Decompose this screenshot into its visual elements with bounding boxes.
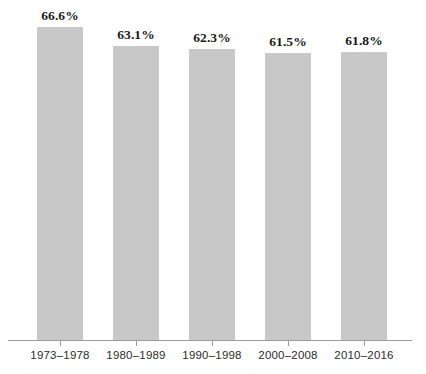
bar-rect[interactable] bbox=[341, 52, 387, 341]
bar-rect[interactable] bbox=[265, 53, 311, 341]
bar-rect[interactable] bbox=[37, 27, 83, 341]
x-axis-label: 2000–2008 bbox=[258, 349, 317, 361]
bar-rect[interactable] bbox=[113, 46, 159, 341]
x-axis-tick bbox=[364, 341, 365, 346]
x-axis-label: 1980–1989 bbox=[106, 349, 165, 361]
bar-value-label: 62.3% bbox=[193, 30, 231, 46]
bar-chart: 66.6% 63.1% 62.3% 61.5% 61.8% 1973–1978 … bbox=[0, 0, 426, 374]
bar-group: 61.8% bbox=[341, 52, 387, 341]
bar-value-label: 61.8% bbox=[345, 33, 383, 49]
x-axis-tick bbox=[288, 341, 289, 346]
bar-group: 66.6% bbox=[37, 27, 83, 341]
plot-area: 66.6% 63.1% 62.3% 61.5% 61.8% bbox=[0, 0, 426, 341]
x-axis-tick bbox=[136, 341, 137, 346]
x-axis-tick bbox=[212, 341, 213, 346]
bar-group: 61.5% bbox=[265, 53, 311, 341]
x-axis-tick bbox=[60, 341, 61, 346]
bar-value-label: 66.6% bbox=[41, 8, 79, 24]
bar-value-label: 63.1% bbox=[117, 27, 155, 43]
bar-rect[interactable] bbox=[189, 49, 235, 341]
bar-value-label: 61.5% bbox=[269, 34, 307, 50]
x-axis-label: 1990–1998 bbox=[182, 349, 241, 361]
x-axis-label: 1973–1978 bbox=[30, 349, 89, 361]
x-axis-label: 2010–2016 bbox=[334, 349, 393, 361]
bar-group: 63.1% bbox=[113, 46, 159, 341]
x-axis-line bbox=[8, 340, 412, 341]
bar-group: 62.3% bbox=[189, 49, 235, 341]
